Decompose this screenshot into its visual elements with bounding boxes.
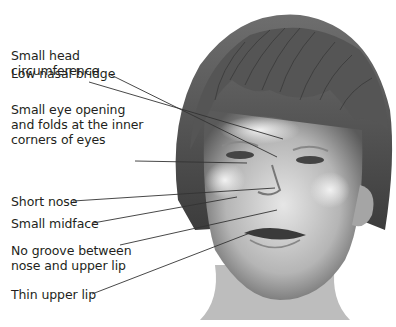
label-thin-upper-lip: Thin upper lip (11, 287, 96, 302)
label-no-groove: No groove between nose and upper lip (11, 243, 131, 273)
label-low-nasal-bridge: Low nasal bridge (11, 66, 115, 81)
label-short-nose: Short nose (11, 194, 77, 209)
label-small-midface: Small midface (11, 216, 99, 231)
label-small-eye-opening: Small eye opening and folds at the inner… (11, 102, 143, 147)
